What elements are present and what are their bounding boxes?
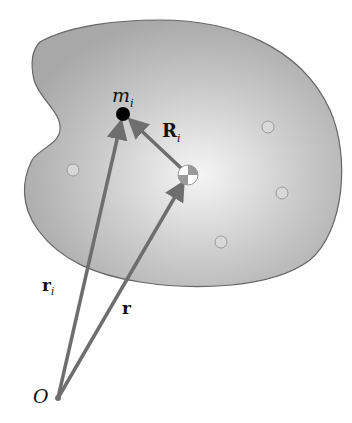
- label-m-i: mi: [112, 84, 134, 110]
- rigid-body-shape: [24, 20, 341, 287]
- particle-circle: [215, 236, 227, 248]
- diagram-graphics: [0, 0, 352, 423]
- particle-circle: [67, 164, 79, 176]
- label-origin: O: [33, 385, 49, 407]
- particle-circle: [262, 121, 274, 133]
- label-R-i: Ri: [162, 120, 180, 145]
- label-r-i: ri: [42, 275, 54, 297]
- particle-circle: [276, 187, 288, 199]
- origin-point: [55, 395, 61, 401]
- center-of-mass-icon: [178, 165, 198, 185]
- diagram-canvas: mi Ri ri r O: [0, 0, 352, 423]
- label-r: r: [122, 298, 131, 318]
